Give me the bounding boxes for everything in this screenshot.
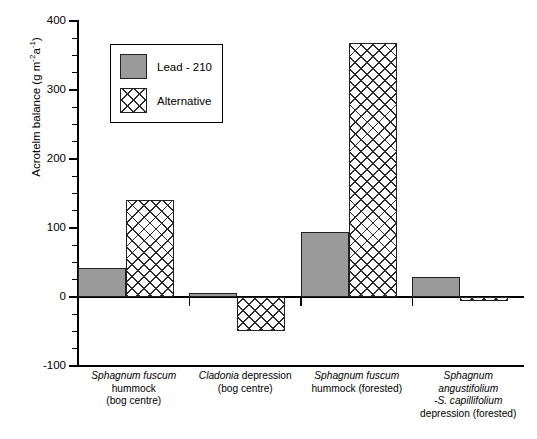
y-tick-minor: [72, 55, 77, 56]
bar-alternative: [126, 200, 174, 297]
y-tick-minor: [72, 348, 77, 349]
chart-legend: Lead - 210 Alternative: [110, 44, 223, 123]
y-tick-minor: [72, 141, 77, 142]
legend-label-lead-210: Lead - 210: [157, 61, 212, 73]
y-tick-major: [69, 365, 77, 367]
legend-item-alternative: Alternative: [120, 88, 211, 113]
y-tick-label: 300: [26, 84, 66, 96]
y-tick-label: 400: [26, 15, 66, 27]
y-axis-line: [77, 20, 79, 367]
y-tick-major: [69, 158, 77, 160]
y-tick-major: [69, 89, 77, 91]
x-group-tick: [300, 297, 302, 306]
x-group-tick: [412, 297, 414, 306]
y-tick-major: [69, 296, 77, 298]
legend-swatch-solid-gray: [120, 54, 147, 79]
y-tick-minor: [72, 279, 77, 280]
x-group-tick: [189, 297, 191, 306]
y-tick-minor: [72, 38, 77, 39]
y-axis-title-close: ): [30, 37, 42, 41]
category-label-line: -S. capillifolium: [403, 395, 535, 408]
bar-lead210: [301, 232, 349, 297]
y-tick-minor: [72, 262, 77, 263]
y-tick-minor: [72, 210, 77, 211]
bar-alternative: [237, 297, 285, 331]
category-label-line: (bog centre): [68, 395, 200, 408]
y-tick-label: 200: [26, 153, 66, 165]
category-label-line: depression (forested): [403, 408, 535, 421]
y-tick-label: 0: [26, 291, 66, 303]
bar-lead210: [189, 293, 237, 297]
y-tick-major: [69, 227, 77, 229]
y-axis-title-sup1: -2: [28, 55, 37, 62]
legend-swatch-cross-hatch: [120, 88, 147, 113]
bar-chart-figure: Acrotelm balance (g m-2a-1) 400300200100…: [0, 0, 537, 439]
y-tick-label: 100: [26, 222, 66, 234]
bar-lead210: [412, 277, 460, 297]
y-tick-minor: [72, 193, 77, 194]
y-axis-title-mid: a: [30, 48, 42, 54]
bar-lead210: [78, 268, 126, 297]
legend-item-lead-210: Lead - 210: [120, 54, 212, 79]
x-axis-line: [77, 365, 524, 367]
y-tick-minor: [72, 176, 77, 177]
category-label-line: angustifolium: [403, 383, 535, 396]
category-label-4: Sphagnumangustifolium-S. capillifoliumde…: [403, 370, 535, 420]
y-tick-minor: [72, 314, 77, 315]
y-tick-minor: [72, 124, 77, 125]
y-axis-title-sup2: -1: [28, 41, 37, 48]
bar-alternative: [349, 43, 397, 297]
y-tick-major: [69, 20, 77, 22]
y-tick-minor: [72, 72, 77, 73]
y-tick-minor: [72, 331, 77, 332]
category-label-line: Sphagnum: [403, 370, 535, 383]
bar-alternative: [460, 297, 508, 301]
y-tick-label: -100: [26, 360, 66, 372]
y-tick-minor: [72, 245, 77, 246]
y-tick-minor: [72, 107, 77, 108]
y-axis-title: Acrotelm balance (g m-2a-1): [28, 0, 42, 237]
legend-label-alternative: Alternative: [157, 95, 211, 107]
